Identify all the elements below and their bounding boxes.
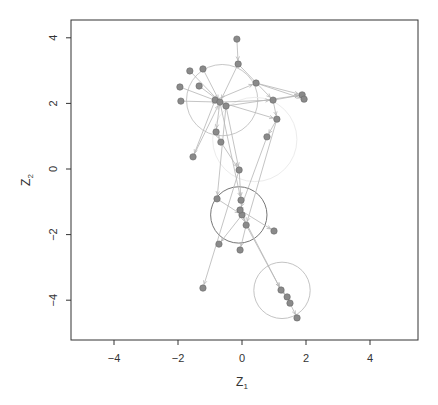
x-axis: −4−2024 [108, 340, 373, 364]
node-point [234, 36, 240, 42]
node-point [237, 207, 243, 213]
edge [246, 119, 277, 225]
node-point [236, 167, 242, 173]
edge [246, 225, 281, 290]
y-tick-label: −4 [47, 294, 59, 307]
node-point [270, 97, 276, 103]
node-point [271, 228, 277, 234]
y-tick-label: 0 [47, 166, 59, 172]
node-point [287, 300, 293, 306]
node-point [253, 80, 259, 86]
node-point [294, 315, 300, 321]
x-tick-label: 0 [239, 352, 245, 364]
edge [220, 102, 241, 200]
x-tick-label: −2 [172, 352, 185, 364]
edge [217, 106, 226, 199]
x-axis-title: Z1 [236, 375, 248, 391]
node-point [264, 134, 270, 140]
latent-space-chart: −4−2024 −4−2024 Z1 Z2 [0, 0, 438, 405]
node-point [196, 83, 202, 89]
edge [256, 83, 302, 95]
network-edges [180, 39, 304, 318]
node-point [218, 139, 224, 145]
node-point [274, 116, 280, 122]
x-tick-label: −4 [108, 352, 121, 364]
node-point [213, 129, 219, 135]
edge [219, 215, 242, 244]
x-tick-label: 2 [303, 352, 309, 364]
node-point [237, 247, 243, 253]
node-point [243, 222, 249, 228]
node-point [235, 61, 241, 67]
node-point [301, 96, 307, 102]
edge [203, 69, 220, 102]
node-point [217, 99, 223, 105]
network-nodes [177, 36, 308, 321]
node-point [284, 294, 290, 300]
node-point [216, 241, 222, 247]
node-point [187, 68, 193, 74]
node-point [238, 197, 244, 203]
node-point [278, 287, 284, 293]
y-tick-label: −2 [47, 228, 59, 241]
edge [203, 170, 239, 288]
node-point [200, 285, 206, 291]
node-point [177, 84, 183, 90]
node-point [190, 154, 196, 160]
node-point [223, 103, 229, 109]
edge [193, 100, 215, 157]
node-point [200, 66, 206, 72]
x-tick-label: 4 [367, 352, 373, 364]
node-point [178, 98, 184, 104]
node-point [214, 196, 220, 202]
y-axis-title: Z2 [19, 174, 35, 186]
y-axis: −4−2024 [47, 35, 71, 307]
y-tick-label: 4 [47, 35, 59, 41]
edge [220, 64, 238, 102]
y-tick-label: 2 [47, 100, 59, 106]
